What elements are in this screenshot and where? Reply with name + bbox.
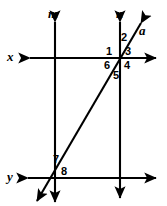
- line-label-x: x: [7, 50, 14, 63]
- angle-6-label: 6: [104, 60, 110, 71]
- angle-1-label: 1: [106, 46, 112, 57]
- line-label-y: y: [7, 170, 13, 183]
- lines-group: [28, 22, 156, 202]
- angle-8-label: 8: [61, 166, 67, 177]
- angle-4-label: 4: [124, 60, 130, 71]
- angle-5-label: 5: [113, 70, 119, 81]
- angle-7-label: 7: [53, 154, 59, 165]
- angle-2-label: 2: [121, 32, 127, 43]
- geometry-diagram: m n x y a 12345678: [0, 0, 167, 206]
- line-label-n: n: [116, 7, 123, 20]
- angle-3-label: 3: [125, 46, 131, 57]
- line-label-a: a: [139, 24, 146, 37]
- line-label-m: m: [48, 7, 58, 20]
